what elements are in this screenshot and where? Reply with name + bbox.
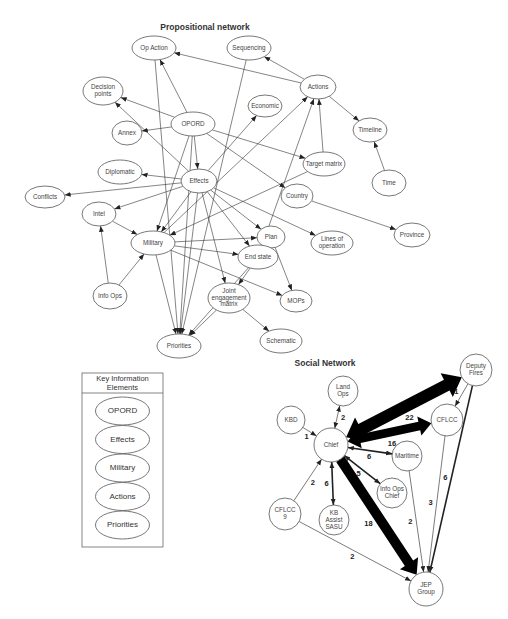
social-edge-cflcc_9-to-jep_group: 2 <box>299 522 411 582</box>
node-lines-of-operation[interactable]: Lines ofoperation <box>311 231 353 255</box>
node-plan[interactable]: Plan <box>257 226 285 248</box>
social-node-maritime[interactable]: Maritime <box>392 441 422 471</box>
social-node-kbd[interactable]: KBD <box>277 406 305 434</box>
node-schematic[interactable]: Schematic <box>260 329 302 353</box>
node-label: Chief <box>385 492 400 499</box>
node-label: SASU <box>325 523 343 530</box>
node-label: matrix <box>220 300 238 307</box>
edge-weight-label: 2 <box>350 552 354 561</box>
legend-item-label: Priorities <box>107 520 138 529</box>
node-label: Military <box>143 239 164 247</box>
edge-effects-to-conflicts <box>65 183 182 195</box>
social-node-jep-group[interactable]: JEPGroup <box>409 572 443 606</box>
social-node-cflcc[interactable]: CFLCC <box>431 404 463 436</box>
edge-opord-to-op_action <box>160 60 187 113</box>
social-node-land-ops[interactable]: LandOps <box>328 376 358 406</box>
node-conflicts[interactable]: Conflicts <box>25 186 65 208</box>
legend-item-opord: OPORD <box>96 397 150 425</box>
edge-weight-label: 2 <box>341 413 345 422</box>
edge-opord-to-effects <box>194 136 197 169</box>
node-intel[interactable]: Intel <box>82 202 116 226</box>
legend-item-military: Military <box>96 454 150 482</box>
node-sequencing[interactable]: Sequencing <box>227 36 271 60</box>
social-edge-line <box>332 462 334 505</box>
diagram-canvas: Propositional network Op ActionSequencin… <box>0 0 508 619</box>
node-label: Effects <box>189 177 208 184</box>
legend-item-label: Actions <box>109 492 135 501</box>
node-priorities[interactable]: Priorities <box>157 334 201 358</box>
node-country[interactable]: Country <box>281 184 313 208</box>
node-diplomatic[interactable]: Diplomatic <box>98 160 142 184</box>
social-edge-line <box>335 406 340 429</box>
social-node-deputy-fires[interactable]: DeputyFires <box>460 354 492 386</box>
edge-opord-to-decision_points <box>121 97 175 117</box>
edge-target_matrix-to-actions <box>319 99 323 152</box>
social-edge-chief-to-kb_assist_sasu: 6 <box>324 462 333 505</box>
node-label: Fires <box>469 369 483 376</box>
edge-joint_engagement_matrix-to-schematic <box>243 309 269 331</box>
legend-item-priorities: Priorities <box>96 511 150 539</box>
edge-intel-to-military <box>113 221 138 234</box>
edge-effects-to-intel <box>114 186 182 209</box>
node-label: Ops <box>337 390 349 398</box>
social-node-chief[interactable]: Chief <box>314 428 348 462</box>
node-label: Diplomatic <box>105 168 134 176</box>
social-edge-chief-to-land_ops: 2 <box>335 406 345 429</box>
legend-title-line-1: Key Information <box>96 374 149 383</box>
edge-opord-to-annex <box>142 127 172 131</box>
node-military[interactable]: Military <box>131 231 175 255</box>
node-time[interactable]: Time <box>372 170 406 196</box>
node-label: CFLCC <box>275 506 296 513</box>
node-timeline[interactable]: Timeline <box>353 118 387 142</box>
node-economic[interactable]: Economic <box>248 95 282 117</box>
edge-weight-label: 2 <box>311 478 315 487</box>
node-actions[interactable]: Actions <box>300 75 336 99</box>
node-label: Annex <box>118 129 137 136</box>
social-node-info-ops-chief[interactable]: Info OpsChief <box>377 478 407 508</box>
edge-info_ops-to-intel <box>101 226 109 283</box>
node-annex[interactable]: Annex <box>112 121 142 145</box>
node-mops[interactable]: MOPs <box>280 290 312 312</box>
edge-weight-label: 22 <box>405 413 413 422</box>
social-network-title: Social Network <box>295 358 356 368</box>
edge-op_action-to-priorities <box>155 60 178 334</box>
legend: Key Information Elements OPORDEffectsMil… <box>82 373 163 547</box>
edge-military-to-end_state <box>174 246 238 255</box>
node-label: 9 <box>283 513 287 520</box>
node-label: JEP <box>420 581 432 588</box>
node-info-ops[interactable]: Info Ops <box>93 283 127 309</box>
node-end-state[interactable]: End state <box>238 245 278 269</box>
edge-opord-to-priorities <box>180 136 192 334</box>
node-label: points <box>95 90 112 98</box>
node-op-action[interactable]: Op Action <box>132 36 176 60</box>
node-label: MOPs <box>287 297 305 304</box>
node-label: Plan <box>265 233 278 240</box>
node-province[interactable]: Province <box>394 223 430 247</box>
social-node-kb-assist-sasu[interactable]: KBAssistSASU <box>319 505 349 535</box>
edge-weight-label: 18 <box>364 519 372 528</box>
legend-item-label: Military <box>110 463 135 472</box>
node-joint-engagement-matrix[interactable]: Jointengagementmatrix <box>208 283 250 313</box>
node-label: Group <box>417 588 435 596</box>
node-label: Timeline <box>358 126 382 133</box>
legend-item-label: Effects <box>110 435 134 444</box>
node-label: KBD <box>285 416 298 423</box>
node-effects[interactable]: Effects <box>181 169 217 193</box>
node-label: Actions <box>308 83 329 90</box>
node-opord[interactable]: OPORD <box>171 112 215 136</box>
social-node-cflcc-9[interactable]: CFLCC9 <box>269 498 301 530</box>
node-label: Sequencing <box>232 44 266 52</box>
node-decision-points[interactable]: Decisionpoints <box>83 77 123 105</box>
node-target-matrix[interactable]: Target matrix <box>303 152 345 176</box>
node-label: Assist <box>326 516 343 523</box>
node-label: Priorities <box>167 342 192 349</box>
edge-weight-label: 3 <box>429 498 433 507</box>
node-label: CFLCC <box>437 416 458 423</box>
edge-weight-label: 6 <box>367 452 371 461</box>
node-label: Info Ops <box>98 292 122 300</box>
node-label: Schematic <box>266 337 295 344</box>
edge-opord-to-country <box>207 133 286 187</box>
edge-weight-label: 6 <box>324 479 328 488</box>
node-label: Province <box>400 231 425 238</box>
node-label: OPORD <box>181 120 205 127</box>
